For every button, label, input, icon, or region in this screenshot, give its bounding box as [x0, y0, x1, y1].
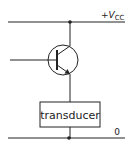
ground-label: 0 — [114, 127, 120, 137]
supply-label: +VCC — [101, 10, 125, 22]
transducer-label: transducer — [40, 109, 100, 122]
ground-junction-dot — [67, 136, 71, 140]
supply-label-subscript: CC — [115, 14, 125, 22]
circuit-diagram: transducer +VCC 0 — [0, 0, 129, 156]
supply-label-prefix: + — [101, 10, 109, 20]
